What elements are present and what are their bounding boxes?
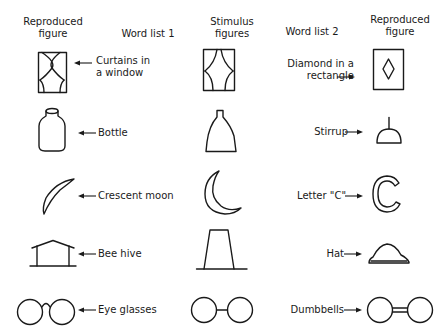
label-stirrup: Stirrup — [300, 126, 348, 138]
label-line: Curtains in — [96, 55, 150, 67]
label-line: a window — [96, 67, 150, 79]
header-word-list-1: Word list 1 — [108, 28, 188, 40]
header-stimulus-figures: Stimulus figures — [202, 16, 262, 40]
label-letter-c: Letter "C" — [284, 190, 346, 202]
stimulus-trapezoid-figure — [196, 229, 248, 271]
reproduced-letter-c-figure — [371, 175, 403, 213]
header-line: Reproduced — [18, 16, 88, 28]
header-word-list-2: Word list 2 — [272, 26, 352, 38]
header-reproduced-figure-left: Reproduced figure — [18, 16, 88, 40]
reproduced-stirrup-figure — [375, 117, 405, 145]
arrow-left-icon — [78, 307, 96, 313]
arrow-right-icon — [337, 74, 355, 80]
reproduced-diamond-rectangle-figure — [373, 49, 405, 91]
label-curtains-in-a-window: Curtains in a window — [96, 55, 150, 79]
label-hat: Hat — [300, 248, 344, 260]
arrow-left-icon — [78, 193, 96, 199]
arrow-left-icon — [78, 130, 96, 136]
label-crescent-moon: Crescent moon — [98, 190, 174, 202]
reproduced-eye-glasses-figure — [16, 298, 76, 330]
arrow-left-icon — [78, 251, 96, 257]
stimulus-curtains-window-figure — [203, 49, 235, 91]
stimulus-flask-figure — [203, 110, 239, 152]
arrow-right-icon — [345, 193, 363, 199]
header-line: Reproduced — [365, 14, 435, 26]
header-line: figure — [365, 26, 435, 38]
label-bottle: Bottle — [98, 127, 128, 139]
header-line: Stimulus — [202, 16, 262, 28]
reproduced-curtains-window-figure — [38, 52, 68, 94]
arrow-right-icon — [345, 129, 363, 135]
header-line: figures — [202, 28, 262, 40]
label-line: Diamond in a — [268, 58, 354, 70]
arrow-left-icon — [74, 60, 92, 66]
stimulus-two-circles-line-figure — [190, 296, 254, 326]
header-reproduced-figure-right: Reproduced figure — [365, 14, 435, 38]
reproduced-dumbbells-figure — [366, 296, 434, 326]
label-dumbbells: Dumbbells — [282, 304, 344, 316]
reproduced-crescent-moon-figure — [42, 178, 76, 216]
arrow-right-icon — [344, 251, 362, 257]
reproduced-hat-figure — [367, 243, 411, 265]
reproduced-bottle-figure — [37, 108, 67, 152]
label-eye-glasses: Eye glasses — [98, 304, 157, 316]
stimulus-crescent-figure — [203, 170, 243, 216]
arrow-right-icon — [344, 307, 362, 313]
header-line: figure — [18, 28, 88, 40]
label-bee-hive: Bee hive — [98, 248, 142, 260]
reproduced-bee-hive-figure — [29, 240, 77, 270]
